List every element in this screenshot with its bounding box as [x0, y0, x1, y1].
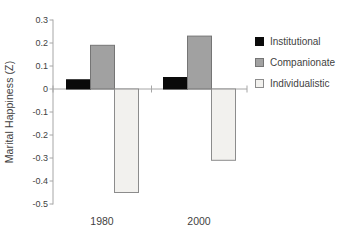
- y-tick-label-0.2: 0.2: [35, 38, 48, 48]
- legend: Institutional Companionate Individualist…: [255, 31, 335, 94]
- y-tick-label--0.1: -0.1: [32, 107, 48, 117]
- legend-label-companionate: Companionate: [270, 57, 335, 68]
- y-tick-label--0.2: -0.2: [32, 130, 48, 140]
- x-category-label-1980: 1980: [90, 215, 114, 227]
- y-tick-label-0.1: 0.1: [35, 61, 48, 71]
- y-tick-label--0.5: -0.5: [32, 199, 48, 209]
- legend-label-institutional: Institutional: [270, 36, 321, 47]
- bar-institutional-2000: [164, 78, 188, 90]
- legend-item-companionate: Companionate: [255, 52, 335, 73]
- legend-label-individualistic: Individualistic: [270, 78, 329, 89]
- bar-companionate-2000: [188, 36, 212, 89]
- bar-chart-marital-happiness: 0.30.20.10-0.1-0.2-0.3-0.4-0.519802000 M…: [0, 0, 350, 243]
- legend-swatch-individualistic: [255, 79, 264, 88]
- legend-item-individualistic: Individualistic: [255, 73, 335, 94]
- bar-institutional-1980: [67, 80, 91, 89]
- bar-individualistic-1980: [115, 89, 139, 193]
- x-category-label-2000: 2000: [187, 215, 211, 227]
- legend-swatch-institutional: [255, 37, 264, 46]
- y-tick-label--0.3: -0.3: [32, 153, 48, 163]
- y-tick-label-0: 0: [43, 84, 48, 94]
- y-tick-label--0.4: -0.4: [32, 176, 48, 186]
- bar-companionate-1980: [91, 45, 115, 89]
- y-tick-label-0.3: 0.3: [35, 15, 48, 25]
- bar-individualistic-2000: [212, 89, 236, 160]
- legend-swatch-companionate: [255, 58, 264, 67]
- y-axis-title: Marital Happiness (Z): [3, 12, 19, 212]
- legend-item-institutional: Institutional: [255, 31, 335, 52]
